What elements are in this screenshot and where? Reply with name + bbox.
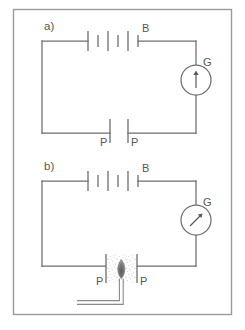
panel-b-plate-right-label: P [140,275,147,287]
panel-a-battery-label: B [142,22,149,34]
panel-a-galvanometer [181,65,211,95]
panel-a-wires [42,41,196,133]
panel-b-plate-left-label: P [96,275,103,287]
panel-b-galvanometer-label: G [203,196,212,208]
panel-b-label: b) [44,160,54,172]
panel-a-label: a) [44,20,54,32]
panel-a-plate-right-label: P [131,136,138,148]
panel-b-galvanometer [181,205,211,235]
panel-a-battery [88,31,138,51]
panel-a-galvanometer-label: G [203,56,212,68]
panel-b-wires [42,181,196,266]
panel-a: a) [42,20,212,148]
panel-b: b) B [42,160,212,304]
panel-a-plates [110,119,128,143]
circuit-diagram-svg: a) [0,0,245,330]
panel-b-battery-label: B [142,162,149,174]
panel-b-battery [88,171,138,191]
panel-a-plate-left-label: P [100,136,107,148]
figure-container: a) [0,0,245,330]
